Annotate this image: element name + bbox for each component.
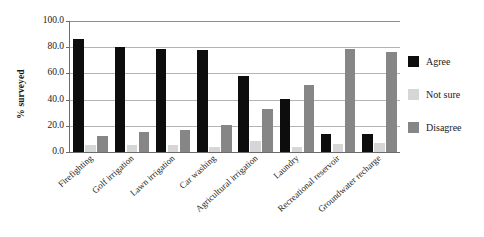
- bar-disagree: [180, 130, 191, 152]
- bar-agree: [280, 99, 291, 152]
- bar-group: [362, 21, 397, 152]
- y-axis-tick-label: 40.0: [24, 95, 64, 105]
- bar-group: [156, 21, 191, 152]
- bar-not-sure: [374, 143, 385, 152]
- bar-agree: [321, 134, 332, 152]
- bar-not-sure: [168, 145, 179, 152]
- bar-disagree: [97, 136, 108, 152]
- bar-not-sure: [209, 147, 220, 152]
- y-axis-tick-label: 60.0: [24, 68, 64, 78]
- bar-not-sure: [127, 145, 138, 152]
- legend-label: Agree: [426, 56, 450, 67]
- bar-not-sure: [85, 145, 96, 152]
- legend-label: Not sure: [426, 89, 460, 100]
- bar-agree: [197, 50, 208, 152]
- bar-disagree: [262, 109, 273, 152]
- bar-group: [321, 21, 356, 152]
- bar-disagree: [345, 49, 356, 152]
- y-axis-tick-label: 20.0: [24, 121, 64, 131]
- legend-swatch-icon: [408, 56, 419, 67]
- bar-agree: [362, 134, 373, 152]
- bar-not-sure: [333, 144, 344, 152]
- legend-item[interactable]: Disagree: [408, 121, 462, 133]
- bar-agree: [238, 76, 249, 152]
- bar-disagree: [386, 52, 397, 152]
- x-axis-category-labels: FirefightingGolf irrigationLawn irrigati…: [69, 153, 484, 237]
- y-axis-tick-label: 100.0: [24, 16, 64, 26]
- bar-group: [73, 21, 108, 152]
- bar-groups: [70, 21, 400, 152]
- x-axis-category-label: Car washing: [178, 153, 218, 191]
- bar-agree: [115, 47, 126, 152]
- y-axis-tick-labels: 0.020.040.060.080.0100.0: [24, 0, 64, 237]
- legend-label: Disagree: [426, 122, 462, 133]
- bar-disagree: [304, 85, 315, 152]
- bar-group: [197, 21, 232, 152]
- legend-item[interactable]: Agree: [408, 55, 450, 67]
- bar-disagree: [139, 132, 150, 152]
- plot-area: [69, 21, 400, 153]
- legend-item[interactable]: Not sure: [408, 88, 460, 100]
- legend-swatch-icon: [408, 122, 419, 133]
- bar-not-sure: [292, 147, 303, 152]
- y-axis-tick-label: 80.0: [24, 42, 64, 52]
- bar-group: [115, 21, 150, 152]
- legend-swatch-icon: [408, 89, 419, 100]
- bar-not-sure: [250, 141, 261, 152]
- bar-chart: % surveyed 0.020.040.060.080.0100.0 Fire…: [0, 0, 484, 237]
- bar-disagree: [221, 125, 232, 152]
- bar-agree: [156, 49, 167, 152]
- bar-group: [238, 21, 273, 152]
- x-axis-category-label: Laundry: [271, 153, 300, 181]
- bar-agree: [73, 39, 84, 152]
- y-axis-tick-label: 0.0: [24, 147, 64, 157]
- bar-group: [280, 21, 315, 152]
